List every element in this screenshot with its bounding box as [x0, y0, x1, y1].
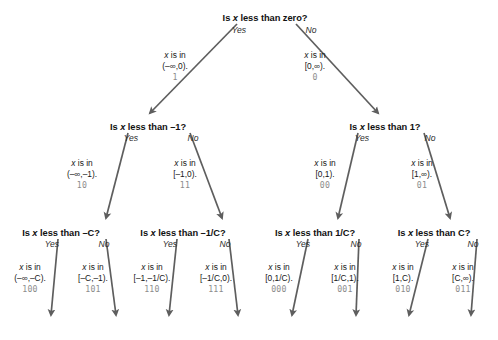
edge-label-interval: [0,∞).: [304, 61, 325, 72]
edge-nrl-yes: [292, 239, 308, 315]
branch-label-nrr-no: No: [468, 239, 479, 249]
branch-label-nll-no: No: [99, 239, 110, 249]
edge-label-e-nlr-no: x is in[–1/C,0).111: [200, 262, 232, 295]
edge-label-e-nll-yes: x is in(–∞,–C).100: [14, 262, 46, 295]
edge-label-binary-code: 10: [67, 180, 97, 191]
edge-label-binary-code: 011: [452, 284, 474, 295]
edge-label-line1: x is in: [331, 262, 358, 273]
edge-label-e-nrl-yes: x is in[0,1/C).000: [265, 262, 292, 295]
edge-label-line1-text: is in: [318, 158, 335, 168]
edge-label-binary-code: 110: [134, 284, 171, 295]
edge-label-interval: (–∞,0).: [162, 61, 188, 72]
node-text-suffix: less than 1/C?: [290, 228, 355, 238]
edge-label-line1: x is in: [411, 158, 432, 169]
edge-label-e-nl-no: x is in[–1,0).11: [173, 158, 197, 191]
edge-label-binary-code: 111: [200, 284, 232, 295]
edge-label-line1-text: is in: [75, 158, 92, 168]
edge-label-line1: x is in: [134, 262, 171, 273]
node-text-suffix: less than –1?: [125, 122, 186, 132]
edge-label-interval: [–1,0).: [173, 169, 197, 180]
edge-label-line1-text: is in: [178, 158, 195, 168]
node-text-suffix: less than zero?: [238, 13, 307, 23]
edge-nl-yes: [106, 133, 128, 218]
node-text-suffix: less than 1?: [365, 122, 421, 132]
edge-label-interval: [–1,–1/C).: [134, 273, 171, 284]
node-text-prefix: Is: [350, 122, 360, 132]
edge-label-line1: x is in: [452, 262, 474, 273]
edge-label-interval: (–∞,–C).: [14, 273, 46, 284]
branch-label-nr-yes: Yes: [355, 133, 369, 143]
decision-node-n_r: Is x less than 1?: [350, 122, 421, 132]
edge-label-interval: (–∞,–1).: [67, 169, 97, 180]
branch-label-nr-no: No: [425, 133, 436, 143]
edge-label-binary-code: 010: [392, 284, 413, 295]
edge-label-e-nrl-no: x is in[1/C,1).001: [331, 262, 358, 295]
node-text-prefix: Is: [140, 228, 150, 238]
node-text-prefix: Is: [223, 13, 233, 23]
edge-label-interval: [C,∞).: [452, 273, 474, 284]
edge-label-interval: [–1/C,0).: [200, 273, 232, 284]
node-text-suffix: less than C?: [413, 228, 470, 238]
node-text-prefix: Is: [22, 228, 32, 238]
branch-label-nll-yes: Yes: [45, 239, 59, 249]
edge-label-line1-text: is in: [396, 262, 413, 272]
edge-label-line1-text: is in: [145, 262, 162, 272]
edge-label-line1-text: is in: [415, 158, 432, 168]
edge-label-e-nl-yes: x is in(–∞,–1).10: [67, 158, 97, 191]
edge-label-interval: [–C,–1).: [78, 273, 108, 284]
branch-label-nlr-yes: Yes: [163, 239, 177, 249]
edge-label-e-nlr-yes: x is in[–1,–1/C).110: [134, 262, 171, 295]
branch-label-nrr-yes: Yes: [415, 239, 429, 249]
edge-label-line1: x is in: [14, 262, 46, 273]
edge-label-interval: [1,C).: [392, 273, 413, 284]
decision-node-n_l: Is x less than –1?: [110, 122, 186, 132]
decision-node-n_lr: Is x less than –1/C?: [140, 228, 225, 238]
edge-label-line1-text: is in: [23, 262, 40, 272]
edge-label-e-root-yes: x is in(–∞,0).1: [162, 50, 188, 83]
branch-label-nlr-no: No: [220, 239, 231, 249]
edge-label-interval: [1,∞).: [411, 169, 432, 180]
edge-label-interval: [1/C,1).: [331, 273, 358, 284]
edge-label-line1: x is in: [67, 158, 97, 169]
edge-label-binary-code: 01: [411, 180, 432, 191]
edge-label-e-nll-no: x is in[–C,–1).101: [78, 262, 108, 295]
edge-label-line1: x is in: [173, 158, 197, 169]
node-text-suffix: less than –C?: [37, 228, 99, 238]
branch-label-nl-yes: Yes: [124, 133, 138, 143]
edge-label-line1-text: is in: [209, 262, 226, 272]
edge-label-e-nr-yes: x is in[0,1).00: [314, 158, 335, 191]
edge-label-line1-text: is in: [338, 262, 355, 272]
decision-tree-diagram: Is x less than zero?Is x less than –1?Is…: [0, 0, 498, 340]
edge-label-binary-code: 11: [173, 180, 197, 191]
edge-label-line1: x is in: [314, 158, 335, 169]
edge-label-line1-text: is in: [456, 262, 473, 272]
edge-label-line1: x is in: [78, 262, 108, 273]
edge-label-line1: x is in: [200, 262, 232, 273]
edge-label-e-nrr-no: x is in[C,∞).011: [452, 262, 474, 295]
decision-node-n_rr: Is x less than C?: [398, 228, 471, 238]
edge-label-line1: x is in: [392, 262, 413, 273]
edge-label-line1-text: is in: [168, 50, 185, 60]
edge-label-binary-code: 001: [331, 284, 358, 295]
edge-nll-yes: [51, 239, 58, 315]
decision-node-root: Is x less than zero?: [223, 13, 308, 23]
edge-label-line1-text: is in: [308, 50, 325, 60]
edge-label-line1: x is in: [162, 50, 188, 61]
edge-label-line1-text: is in: [86, 262, 103, 272]
node-text-prefix: Is: [398, 228, 408, 238]
edge-label-interval: [0,1/C).: [265, 273, 292, 284]
node-text-prefix: Is: [110, 122, 120, 132]
branch-label-nrl-no: No: [351, 239, 362, 249]
node-text-suffix: less than –1/C?: [156, 228, 226, 238]
node-text-prefix: Is: [275, 228, 285, 238]
edge-label-binary-code: 0: [304, 72, 325, 83]
edge-label-binary-code: 101: [78, 284, 108, 295]
edge-label-interval: [0,1).: [314, 169, 335, 180]
edge-label-line1: x is in: [265, 262, 292, 273]
branch-label-root-no: No: [306, 25, 317, 35]
edge-label-binary-code: 100: [14, 284, 46, 295]
branch-label-nl-no: No: [188, 133, 199, 143]
branch-label-root-yes: Yes: [232, 25, 246, 35]
decision-node-n_ll: Is x less than –C?: [22, 228, 100, 238]
edge-label-e-nr-no: x is in[1,∞).01: [411, 158, 432, 191]
